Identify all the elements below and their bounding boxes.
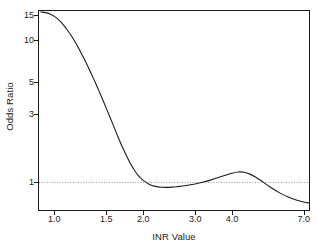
plot-frame-border — [39, 11, 310, 211]
y-axis-tick-marks — [34, 16, 38, 183]
chart-figure: Odds Ratio 1351015 1.01.52.03.04.07.0 IN… — [0, 0, 317, 251]
plot-area — [0, 0, 317, 251]
plot-frame — [39, 11, 310, 211]
x-axis-tick-marks — [55, 211, 305, 215]
